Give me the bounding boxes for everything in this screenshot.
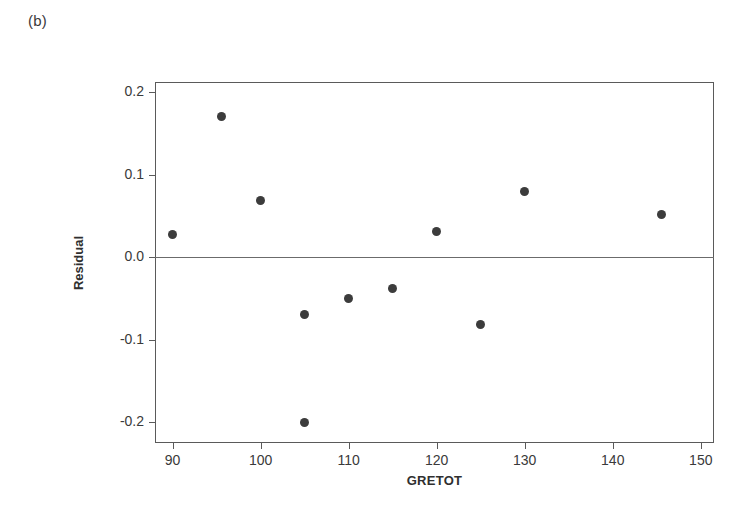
y-axis-tick-mark	[149, 92, 155, 93]
data-point	[256, 196, 265, 205]
data-point	[344, 294, 353, 303]
x-axis-tick-label: 130	[495, 452, 555, 468]
y-axis-tick-label: -0.1	[84, 331, 144, 347]
x-axis-tick-mark	[525, 443, 526, 449]
data-point	[217, 112, 226, 121]
data-point	[657, 210, 666, 219]
data-point	[432, 227, 441, 236]
data-point	[300, 310, 309, 319]
y-axis-tick-mark	[149, 257, 155, 258]
y-axis-tick-label: 0.1	[84, 166, 144, 182]
data-point	[168, 230, 177, 239]
y-axis-label: Residual	[71, 235, 86, 289]
residual-scatter-figure: (b) 0.20.10.0-0.1-0.2 901001101201301401…	[0, 0, 750, 511]
x-axis-tick-label: 150	[671, 452, 731, 468]
y-axis-tick-mark	[149, 175, 155, 176]
y-axis-tick-mark	[149, 422, 155, 423]
y-axis-tick-label: -0.2	[84, 413, 144, 429]
data-point	[388, 284, 397, 293]
x-axis-tick-mark	[349, 443, 350, 449]
x-axis-label: GRETOT	[155, 473, 714, 488]
y-axis-tick-label: 0.0	[84, 248, 144, 264]
x-axis-tick-mark	[261, 443, 262, 449]
plot-area	[155, 82, 714, 443]
x-axis-tick-mark	[173, 443, 174, 449]
x-axis-tick-mark	[613, 443, 614, 449]
panel-label: (b)	[28, 12, 47, 29]
data-point	[300, 418, 309, 427]
x-axis-tick-label: 120	[407, 452, 467, 468]
data-point	[520, 187, 529, 196]
x-axis-tick-label: 110	[319, 452, 379, 468]
zero-residual-line	[155, 257, 714, 258]
x-axis-tick-label: 90	[143, 452, 203, 468]
x-axis-tick-label: 100	[231, 452, 291, 468]
x-axis-tick-mark	[437, 443, 438, 449]
x-axis-tick-label: 140	[583, 452, 643, 468]
x-axis-tick-mark	[701, 443, 702, 449]
data-point	[476, 320, 485, 329]
y-axis-tick-label: 0.2	[84, 83, 144, 99]
y-axis-tick-mark	[149, 340, 155, 341]
